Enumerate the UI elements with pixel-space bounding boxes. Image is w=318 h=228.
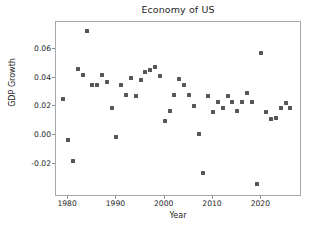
data-point (158, 74, 162, 78)
data-point (134, 94, 138, 98)
data-point (90, 83, 94, 87)
data-point (163, 119, 167, 123)
data-point (206, 94, 210, 98)
x-tick-label: 2000 (144, 199, 184, 208)
data-point (182, 83, 186, 87)
data-point (274, 116, 278, 120)
y-tick-label: 0.04 (21, 72, 51, 81)
data-point (168, 109, 172, 113)
x-tick-label: 2020 (240, 199, 280, 208)
scatter-plot-area (55, 21, 301, 196)
data-point (71, 159, 75, 163)
x-tick-label: 2010 (192, 199, 232, 208)
data-point (245, 91, 249, 95)
y-tick-label: 0.06 (21, 43, 51, 52)
y-axis-label: GDP Growth (8, 53, 17, 113)
x-tick-label: 1980 (47, 199, 87, 208)
y-axis-tick-labels: -0.020.000.020.040.06 (19, 21, 51, 196)
x-axis-tick-labels: 19801990200020102020 (55, 199, 301, 211)
data-point (250, 100, 254, 104)
data-point (216, 100, 220, 104)
data-point (85, 29, 89, 33)
x-axis-label: Year (55, 211, 301, 220)
data-point (76, 67, 80, 71)
x-tick-label: 1990 (95, 199, 135, 208)
data-point (187, 93, 191, 97)
data-point (240, 100, 244, 104)
data-point (226, 94, 230, 98)
data-point (139, 78, 143, 82)
data-point (95, 83, 99, 87)
data-point (100, 73, 104, 77)
data-point (177, 77, 181, 81)
data-point (221, 106, 225, 110)
data-point (153, 65, 157, 69)
data-point (114, 135, 118, 139)
data-point (192, 104, 196, 108)
data-point (211, 110, 215, 114)
data-point (201, 171, 205, 175)
data-point (230, 100, 234, 104)
data-point (66, 138, 70, 142)
data-point (279, 106, 283, 110)
data-point (119, 83, 123, 87)
chart-figure: Economy of US GDP Growth -0.020.000.020.… (0, 0, 318, 228)
data-point (269, 117, 273, 121)
data-point (235, 109, 239, 113)
data-point (172, 93, 176, 97)
data-point (61, 97, 65, 101)
y-tick-label: 0.00 (21, 130, 51, 139)
data-point (81, 73, 85, 77)
data-point (148, 68, 152, 72)
data-point (143, 70, 147, 74)
data-point (124, 93, 128, 97)
data-point (129, 76, 133, 80)
data-point (110, 106, 114, 110)
chart-title: Economy of US (55, 4, 301, 15)
y-tick-label: -0.02 (21, 159, 51, 168)
data-point (284, 101, 288, 105)
data-point (264, 110, 268, 114)
data-point (255, 182, 259, 186)
data-point (288, 106, 292, 110)
data-point (197, 132, 201, 136)
y-tick-label: 0.02 (21, 101, 51, 110)
data-point (259, 51, 263, 55)
data-point (105, 80, 109, 84)
